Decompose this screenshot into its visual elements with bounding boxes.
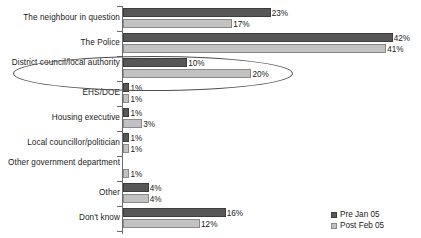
legend-label: Post Feb 05 bbox=[340, 221, 384, 230]
bar-chart: The neighbour in question 23% 17% The Po… bbox=[0, 0, 421, 238]
legend-item-post-feb-05: Post Feb 05 bbox=[331, 220, 384, 231]
legend-label: Pre Jan 05 bbox=[340, 210, 380, 219]
category-label: Other government department bbox=[0, 158, 120, 168]
chart-row: The Police 42% 41% bbox=[0, 31, 421, 56]
bar-post: 20% bbox=[123, 69, 251, 78]
bar-value-label: 42% bbox=[394, 33, 410, 42]
category-label: Housing executive bbox=[0, 113, 120, 123]
chart-row: Other 4% 4% bbox=[0, 181, 421, 206]
bar-group: 42% 41% bbox=[123, 33, 393, 55]
chart-row: The neighbour in question 23% 17% bbox=[0, 6, 421, 31]
bar-value-label: 23% bbox=[272, 8, 288, 17]
chart-row: Other government department 1% bbox=[0, 156, 421, 181]
chart-row: Housing executive 1% 3% bbox=[0, 106, 421, 131]
chart-row: Local councillor/politician 1% 1% bbox=[0, 131, 421, 156]
bar-group: 1% 1% bbox=[123, 133, 129, 155]
bar-value-label: 1% bbox=[130, 108, 142, 117]
legend-swatch-icon bbox=[331, 223, 337, 229]
bar-value-label: 3% bbox=[143, 119, 155, 128]
bar-pre: 16% bbox=[123, 208, 226, 217]
bar-post: 4% bbox=[123, 194, 149, 203]
bar-value-label: 1% bbox=[130, 83, 142, 92]
category-label: Local councillor/politician bbox=[0, 138, 120, 148]
bar-pre: 4% bbox=[123, 183, 149, 192]
bar-post: 1% bbox=[123, 94, 129, 103]
bar-pre: 1% bbox=[123, 133, 129, 142]
bar-value-label: 41% bbox=[387, 44, 403, 53]
category-label: The neighbour in question bbox=[0, 13, 120, 23]
category-label: District council/local authority bbox=[0, 58, 120, 68]
category-label: Don't know bbox=[0, 213, 120, 223]
bar-post: 1% bbox=[123, 144, 129, 153]
bar-value-label: 10% bbox=[188, 58, 204, 67]
bar-pre: 42% bbox=[123, 33, 393, 42]
bar-post: 41% bbox=[123, 44, 386, 53]
chart-legend: Pre Jan 05 Post Feb 05 bbox=[331, 209, 384, 231]
bar-value-label: 12% bbox=[201, 219, 217, 228]
bar-value-label: 17% bbox=[233, 19, 249, 28]
bar-value-label: 4% bbox=[150, 194, 162, 203]
bar-post: 3% bbox=[123, 119, 142, 128]
bar-value-label: 1% bbox=[130, 94, 142, 103]
category-label: EHS/DOE bbox=[0, 88, 120, 98]
bar-group: 1% 1% bbox=[123, 83, 129, 105]
bar-value-label: 1% bbox=[130, 169, 142, 178]
bar-pre: 1% bbox=[123, 108, 129, 117]
bar-pre: 10% bbox=[123, 58, 187, 67]
category-label: The Police bbox=[0, 38, 120, 48]
bar-group: 1% bbox=[123, 158, 129, 180]
bar-pre: 23% bbox=[123, 8, 271, 17]
bar-group: 23% 17% bbox=[123, 8, 271, 30]
plot-area: The neighbour in question 23% 17% The Po… bbox=[0, 0, 421, 238]
bar-group: 16% 12% bbox=[123, 208, 226, 230]
bar-value-label: 1% bbox=[130, 133, 142, 142]
bar-group: 4% 4% bbox=[123, 183, 149, 205]
chart-row: EHS/DOE 1% 1% bbox=[0, 81, 421, 106]
bar-value-label: 16% bbox=[227, 208, 243, 217]
bar-pre: 1% bbox=[123, 83, 129, 92]
bar-value-label: 1% bbox=[130, 144, 142, 153]
category-label: Other bbox=[0, 188, 120, 198]
legend-swatch-icon bbox=[331, 212, 337, 218]
bar-value-label: 4% bbox=[150, 183, 162, 192]
chart-row: District council/local authority 10% 20% bbox=[0, 56, 421, 81]
legend-item-pre-jan-05: Pre Jan 05 bbox=[331, 209, 384, 220]
bar-group: 10% 20% bbox=[123, 58, 251, 80]
bar-post: 12% bbox=[123, 219, 200, 228]
bar-value-label: 20% bbox=[252, 69, 268, 78]
bar-post: 1% bbox=[123, 169, 129, 178]
axis-tick bbox=[117, 231, 122, 232]
bar-group: 1% 3% bbox=[123, 108, 142, 130]
bar-post: 17% bbox=[123, 19, 232, 28]
